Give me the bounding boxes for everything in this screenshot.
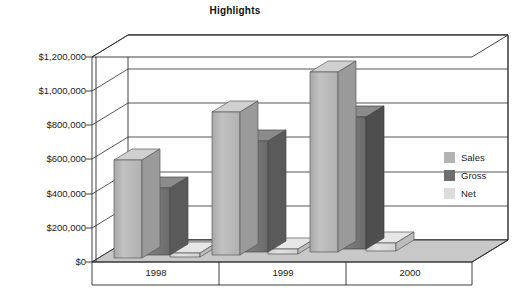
legend-item-sales: Sales (444, 148, 522, 166)
legend-label-sales: Sales (461, 152, 485, 163)
y-tick-label-600000: $600,000 (16, 153, 86, 164)
legend-swatch-sales (444, 152, 455, 163)
bar-1999-sales (212, 101, 258, 255)
legend-swatch-gross (444, 170, 455, 181)
x-tick-label-2000: 2000 (380, 267, 440, 278)
y-tick-label-400000: $400,000 (16, 188, 86, 199)
y-tick-label-800000: $800,000 (16, 119, 86, 130)
chart-container: Highlights (0, 0, 523, 299)
legend-item-net: Net (444, 184, 522, 202)
x-tick-label-1999: 1999 (253, 267, 313, 278)
y-tick-label-0: $0 (16, 256, 86, 267)
chart-legend: Sales Gross Net (444, 148, 522, 202)
y-tick-label-200000: $200,000 (16, 222, 86, 233)
y-tick-label-1200000: $1,200,000 (16, 51, 86, 62)
legend-item-gross: Gross (444, 166, 522, 184)
legend-swatch-net (444, 188, 455, 199)
bar-1998-sales (114, 149, 160, 258)
y-axis-tick-labels: $1,200,000 $1,000,000 $800,000 $600,000 … (12, 0, 86, 299)
x-tick-label-1998: 1998 (126, 267, 186, 278)
bar-2000-sales (310, 61, 356, 252)
legend-label-net: Net (461, 188, 476, 199)
y-tick-label-1000000: $1,000,000 (16, 85, 86, 96)
chart-y-axis (86, 57, 96, 262)
legend-label-gross: Gross (461, 170, 486, 181)
